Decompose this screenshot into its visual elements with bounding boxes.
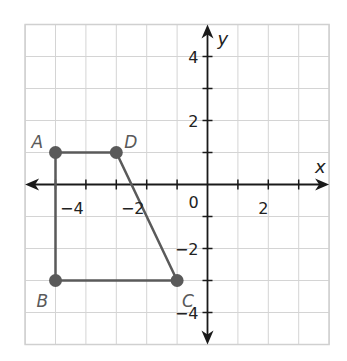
y-tick-label: −2: [175, 240, 199, 259]
vertex-label-c: C: [182, 291, 194, 311]
coordinate-plane: yx0−4−2242−2−4ABCD: [0, 0, 347, 361]
vertex-label-d: D: [124, 132, 137, 152]
x-tick-label: 2: [258, 199, 268, 218]
y-axis-label: y: [217, 28, 229, 49]
y-tick-label: 2: [188, 112, 198, 131]
vertex-point-c: [171, 274, 184, 287]
x-tick-label: −4: [60, 199, 84, 218]
vertex-label-b: B: [37, 291, 49, 311]
vertex-point-b: [49, 274, 62, 287]
x-tick-label: −2: [121, 199, 145, 218]
vertex-point-d: [110, 146, 123, 159]
x-axis-label: x: [314, 156, 326, 177]
vertex-point-a: [49, 146, 62, 159]
y-tick-label: 4: [188, 48, 198, 67]
origin-label: 0: [189, 193, 199, 212]
vertex-label-a: A: [31, 132, 44, 152]
